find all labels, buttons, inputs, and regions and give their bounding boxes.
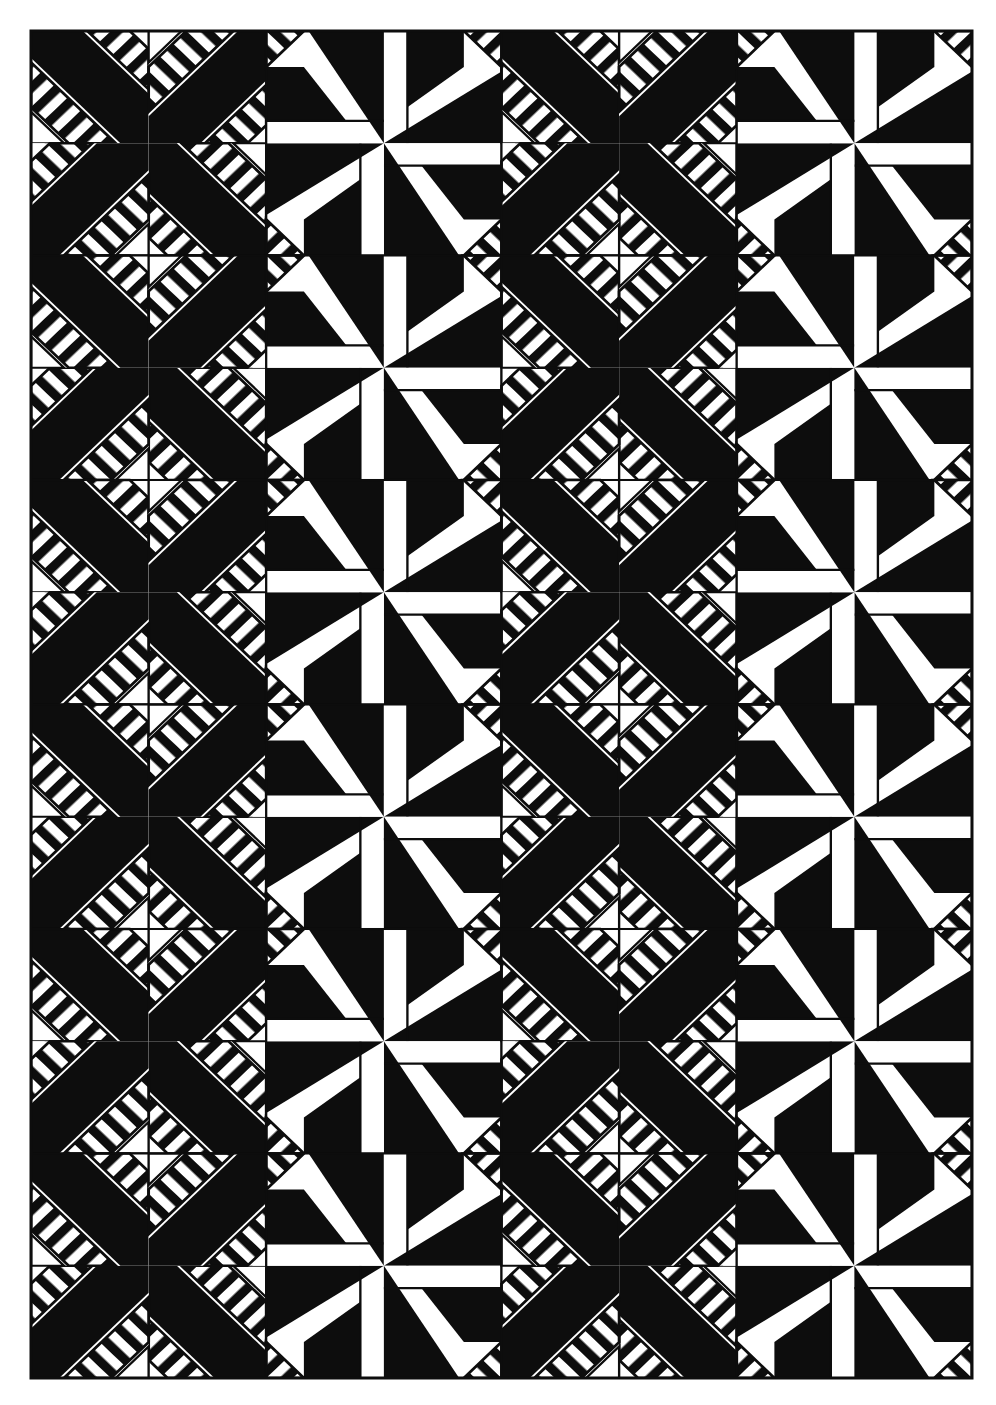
quilt-block [31,1154,266,1379]
quilt-block [266,1154,501,1379]
quilt-block [266,256,501,481]
quilt-block [737,31,972,255]
quilt-block [31,705,266,930]
quilt-block [737,480,972,705]
quilt-block [502,929,737,1154]
quilt-block [31,31,266,255]
quilt-block [502,256,737,481]
quilt-block [737,705,972,930]
quilt-block [266,929,501,1154]
quilt-block [502,1154,737,1379]
quilt-block [266,31,501,255]
quilt-block [502,480,737,705]
quilt-block [31,929,266,1154]
quilt-block-grid [31,31,972,1378]
quilt-canvas [0,0,996,1405]
quilt-block [737,929,972,1154]
quilt-block [266,705,501,930]
quilt-block [266,480,501,705]
quilt-block [31,480,266,705]
quilt-block [31,256,266,481]
quilt-block [737,1154,972,1379]
quilt-block [502,705,737,930]
quilt-block [737,256,972,481]
quilt-artwork [0,0,996,1405]
quilt-block [502,31,737,255]
